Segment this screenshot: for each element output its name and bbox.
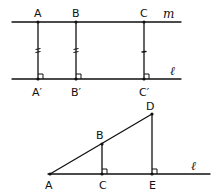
figure-top-parallel-lines: A B C m ℓ A′ B′ C′ (12, 7, 181, 99)
point-B-prime (74, 77, 77, 80)
point-C-prime (142, 77, 145, 80)
label-B-bottom: B (96, 129, 104, 142)
point-C-bottom (100, 172, 103, 175)
point-C-top (142, 20, 145, 23)
label-A-bottom: A (45, 179, 53, 192)
label-line-l-top: ℓ (170, 64, 175, 78)
point-B-top (74, 20, 77, 23)
label-B-prime: B′ (71, 86, 82, 99)
point-A-bottom (48, 172, 51, 175)
label-C-prime: C′ (139, 86, 150, 99)
figure-bottom-similar-triangles: D B A C E ℓ (45, 100, 210, 192)
point-E (150, 172, 153, 175)
label-C-top: C (140, 7, 148, 20)
label-A-prime: A′ (32, 86, 43, 99)
label-A-top: A (34, 7, 42, 20)
label-B-top: B (72, 7, 80, 20)
label-E: E (149, 179, 156, 192)
point-A-top (36, 20, 39, 23)
point-A-prime (36, 77, 39, 80)
point-B-bottom (100, 142, 103, 145)
label-line-l-bottom: ℓ (191, 159, 196, 173)
single-tick-mark-CC-prime (142, 52, 146, 53)
label-C-bottom: C (99, 179, 107, 192)
label-D: D (146, 100, 154, 113)
label-line-m: m (163, 7, 174, 21)
geometry-diagram: A B C m ℓ A′ B′ C′ D B A C E ℓ (0, 0, 217, 194)
